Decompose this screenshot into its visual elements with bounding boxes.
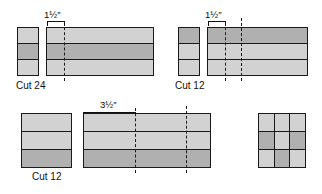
measure-tick-right xyxy=(225,21,226,26)
nine-patch-cell-r1c2 xyxy=(275,114,290,131)
group-c-measure-label: 3½″ xyxy=(100,100,117,110)
measure-bar xyxy=(47,21,65,22)
group-c-stack-band-2 xyxy=(22,132,71,150)
group-a-stack-band-2 xyxy=(18,44,38,60)
measure-tick-left xyxy=(47,21,48,26)
nine-patch-cell-r2c2 xyxy=(275,132,290,149)
nine-patch-cell-r2c1 xyxy=(259,132,274,149)
group-b-segment-stack xyxy=(178,27,200,76)
group-c-strip-band-2 xyxy=(84,132,210,150)
nine-patch-cell-r3c2 xyxy=(275,150,290,167)
group-c-cut-label: Cut 12 xyxy=(32,172,61,182)
group-c-stack-band-1 xyxy=(22,114,71,132)
group-c-strip-band-1 xyxy=(84,114,210,132)
group-b-strip-band-1 xyxy=(208,28,307,44)
nine-patch-cell-r2c3 xyxy=(290,132,305,149)
group-a-strip-band-1 xyxy=(47,28,153,44)
group-c-strip-band-3 xyxy=(84,150,210,167)
group-a-strip-set xyxy=(46,27,154,76)
group-b-stack-band-2 xyxy=(179,44,199,60)
group-a-segment-stack xyxy=(17,27,39,76)
group-b-cut-label: Cut 12 xyxy=(175,81,204,91)
nine-patch-cell-r3c3 xyxy=(290,150,305,167)
group-b-stack-band-1 xyxy=(179,28,199,44)
group-a-cut-label: Cut 24 xyxy=(16,81,45,91)
measure-bar xyxy=(208,21,226,22)
group-b-strip-set xyxy=(207,27,308,76)
nine-patch-cell-r1c1 xyxy=(259,114,274,131)
group-a-measure-label: 1½″ xyxy=(44,10,61,20)
nine-patch-cell-r1c3 xyxy=(290,114,305,131)
nine-patch-cell-r3c1 xyxy=(259,150,274,167)
group-c-segment-stack xyxy=(21,113,72,168)
group-a-strip-band-2 xyxy=(47,44,153,60)
measure-tick-left xyxy=(208,21,209,26)
group-c-strip-set xyxy=(83,113,211,168)
cutting-diagram: Cut 24 1½″ Cut 12 1½″ Cut 12 xyxy=(0,0,322,194)
group-a-stack-band-3 xyxy=(18,60,38,75)
group-b-measure-label: 1½″ xyxy=(205,10,222,20)
group-a-strip-band-3 xyxy=(47,60,153,75)
group-b-strip-band-2 xyxy=(208,44,307,60)
finished-nine-patch-block xyxy=(258,113,306,168)
measure-tick-right xyxy=(64,21,65,26)
group-c-stack-band-3 xyxy=(22,150,71,167)
group-a-stack-band-1 xyxy=(18,28,38,44)
group-b-stack-band-3 xyxy=(179,60,199,75)
group-b-strip-band-3 xyxy=(208,60,307,75)
